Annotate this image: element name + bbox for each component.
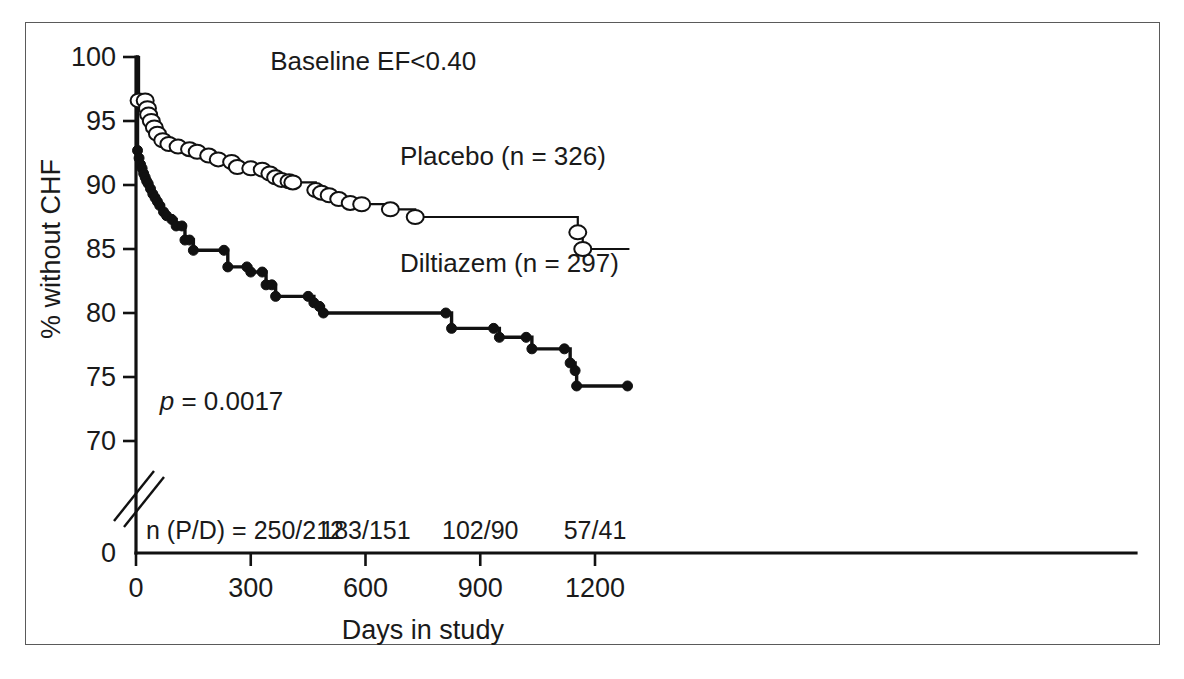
y-tick-label-100: 100 [71, 42, 116, 72]
y-tick-label-zero: 0 [101, 538, 116, 568]
y-tick-label-90: 90 [86, 170, 116, 200]
x-axis-title: Days in study [342, 615, 505, 645]
x-tick-label-900: 900 [458, 573, 503, 603]
y-tick-label-75: 75 [86, 362, 116, 392]
x-tick-label-0: 0 [128, 573, 143, 603]
y-tick-label-70: 70 [86, 426, 116, 456]
marker-diltiazem-24 [246, 267, 256, 277]
marker-placebo-28 [353, 197, 370, 211]
marker-diltiazem-43 [623, 381, 633, 391]
marker-diltiazem-34 [447, 323, 457, 333]
y-tick-label-80: 80 [86, 298, 116, 328]
marker-diltiazem-27 [267, 280, 277, 290]
figure-root: 100959085807570003006009001200Days in st… [0, 0, 1184, 679]
marker-diltiazem-38 [527, 344, 537, 354]
marker-placebo-32 [574, 242, 591, 256]
pvalue-symbol: p [159, 386, 174, 416]
marker-diltiazem-28 [271, 291, 281, 301]
x-tick-label-300: 300 [228, 573, 273, 603]
risk-table-entry-1: 102/90 [442, 516, 518, 544]
plot-title: Baseline EF<0.40 [270, 46, 476, 76]
marker-diltiazem-33 [441, 308, 451, 318]
marker-diltiazem-19 [185, 235, 195, 245]
x-tick-label-600: 600 [343, 573, 388, 603]
y-axis-title: % without CHF [36, 159, 66, 339]
y-tick-label-95: 95 [86, 106, 116, 136]
marker-diltiazem-25 [257, 267, 267, 277]
risk-table-entry-0: 183/151 [320, 516, 410, 544]
risk-table-entry-2: 57/41 [564, 516, 627, 544]
marker-diltiazem-41 [570, 366, 580, 376]
marker-diltiazem-17 [177, 221, 187, 231]
pvalue-value: = 0.0017 [174, 386, 283, 416]
x-tick-label-1200: 1200 [565, 573, 625, 603]
marker-diltiazem-21 [219, 245, 229, 255]
marker-diltiazem-32 [318, 308, 328, 318]
marker-diltiazem-39 [559, 344, 569, 354]
marker-placebo-31 [569, 225, 586, 239]
kaplan-meier-chart: 100959085807570003006009001200Days in st… [26, 23, 1161, 646]
marker-diltiazem-42 [572, 381, 582, 391]
series-label-placebo: Placebo (n = 326) [400, 141, 606, 171]
marker-placebo-22 [284, 175, 301, 189]
marker-placebo-29 [382, 202, 399, 216]
marker-diltiazem-35 [489, 323, 499, 333]
curve-diltiazem [136, 57, 628, 386]
risk-table-prefix: n (P/D) = 250/212 [146, 516, 344, 544]
marker-diltiazem-37 [521, 332, 531, 342]
y-tick-label-85: 85 [86, 234, 116, 264]
marker-placebo-30 [407, 210, 424, 224]
figure-frame: 100959085807570003006009001200Days in st… [25, 22, 1160, 645]
marker-diltiazem-20 [188, 245, 198, 255]
marker-diltiazem-22 [223, 262, 233, 272]
marker-diltiazem-36 [494, 332, 504, 342]
pvalue-annotation: p = 0.0017 [159, 386, 284, 416]
